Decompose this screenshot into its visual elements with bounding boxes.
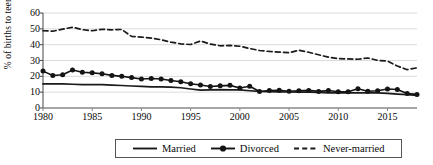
data-point-divorced	[267, 88, 272, 93]
series-line-never-married	[43, 27, 417, 69]
data-point-divorced	[218, 83, 223, 88]
data-point-divorced	[355, 86, 360, 91]
data-point-divorced	[50, 73, 55, 78]
data-point-divorced	[316, 89, 321, 94]
legend-label-divorced: Divorced	[240, 143, 279, 154]
data-point-divorced	[287, 89, 292, 94]
x-tick-label: 2015	[367, 112, 407, 122]
data-point-divorced	[198, 83, 203, 88]
data-point-divorced	[41, 69, 46, 74]
series-line-divorced	[43, 70, 417, 94]
data-point-divorced	[208, 84, 213, 89]
x-tick-label: 2000	[220, 112, 260, 122]
data-point-divorced	[247, 84, 252, 89]
data-point-divorced	[415, 92, 420, 97]
data-point-divorced	[80, 70, 85, 75]
data-point-divorced	[346, 89, 351, 94]
data-point-divorced	[188, 81, 193, 86]
legend-item-divorced[interactable]: Divorced	[210, 143, 279, 154]
data-point-divorced	[168, 78, 173, 83]
data-point-divorced	[365, 89, 370, 94]
data-point-divorced	[296, 88, 301, 93]
data-point-divorced	[385, 87, 390, 92]
legend-label-married: Married	[162, 143, 196, 154]
data-point-divorced	[326, 88, 331, 93]
data-point-divorced	[257, 89, 262, 94]
legend-item-never-married[interactable]: Never-married	[293, 143, 385, 154]
data-point-divorced	[178, 79, 183, 84]
data-point-divorced	[109, 73, 114, 78]
data-point-divorced	[336, 89, 341, 94]
data-point-divorced	[149, 76, 154, 81]
data-point-divorced	[306, 88, 311, 93]
chart-legend: Married Divorced Never-married	[115, 139, 402, 158]
legend-label-never-married: Never-married	[323, 143, 385, 154]
data-point-divorced	[228, 83, 233, 88]
data-point-divorced	[237, 86, 242, 91]
solid-line-key	[132, 143, 158, 154]
x-tick-label: 1990	[121, 112, 161, 122]
data-point-divorced	[375, 88, 380, 93]
data-point-divorced	[60, 72, 65, 77]
data-point-divorced	[395, 87, 400, 92]
dashed-line-key	[293, 143, 319, 154]
x-tick-label: 1980	[23, 112, 63, 122]
legend-item-married[interactable]: Married	[132, 143, 196, 154]
x-tick-label: 1985	[72, 112, 112, 122]
data-point-divorced	[129, 75, 134, 80]
x-tick-label: 2005	[269, 112, 309, 122]
data-point-divorced	[405, 91, 410, 96]
x-tick-label: 2010	[318, 112, 358, 122]
data-point-divorced	[119, 74, 124, 79]
data-point-divorced	[159, 77, 164, 82]
x-tick-label: 1995	[171, 112, 211, 122]
data-point-divorced	[90, 70, 95, 75]
marker-line-key	[210, 143, 236, 154]
data-point-divorced	[139, 77, 144, 82]
data-point-divorced	[100, 71, 105, 76]
data-point-divorced	[70, 68, 75, 73]
data-point-divorced	[277, 88, 282, 93]
chart-figure: % of births to teenagers 0102030405060 M…	[0, 0, 433, 165]
